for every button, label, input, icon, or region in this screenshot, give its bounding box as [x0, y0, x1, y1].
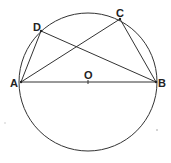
label-o: O [84, 69, 93, 81]
label-c: C [116, 7, 124, 19]
label-d: D [33, 21, 41, 33]
point-a-dot [20, 81, 22, 83]
stray-dot [156, 129, 157, 130]
segment-db [41, 31, 156, 82]
stray-dot [4, 122, 5, 123]
segment-cb [120, 19, 156, 82]
point-b-dot [155, 81, 157, 83]
label-a: A [10, 77, 18, 89]
geometry-diagram: A B C D O [0, 0, 171, 163]
label-b: B [158, 77, 166, 89]
